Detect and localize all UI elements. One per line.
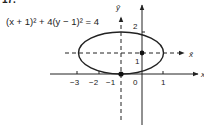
tick-label-x-neg2: −2: [89, 78, 99, 87]
tick-label-x-1: 1: [161, 78, 166, 87]
ellipse-bottom-vertex-point: [118, 71, 123, 76]
tick-label-y-2: 2: [133, 22, 138, 31]
translated-origin-point: [140, 51, 145, 56]
tick-label-x-neg3: −3: [70, 78, 80, 87]
x-axis-label: x: [200, 70, 204, 79]
equation-label: (x + 1)² + 4(y − 1)² = 4: [6, 16, 99, 27]
tick-label-x-neg1: −1: [106, 78, 116, 87]
ellipse-diagram: (x + 1)² + 4(y − 1)² = 4 x ȳ x̄ −3 −2 −1…: [0, 0, 204, 134]
tick-label-y-1: 1: [135, 57, 140, 66]
xbar-axis-label: x̄: [188, 50, 194, 59]
ybar-axis-label: ȳ: [115, 3, 121, 12]
tick-label-x-0: 0: [133, 78, 138, 87]
